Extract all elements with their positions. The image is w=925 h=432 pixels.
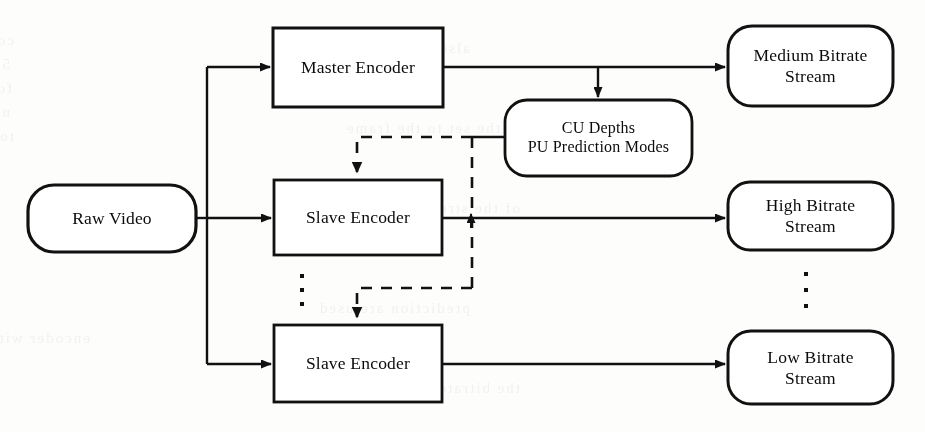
node-raw-video [28, 185, 196, 252]
node-high-bitrate-stream [728, 182, 893, 250]
stream-ellipsis [803, 272, 808, 308]
node-medium-bitrate-stream [728, 26, 893, 106]
node-slave-encoder-1 [274, 180, 442, 255]
node-master-encoder [273, 28, 443, 107]
node-low-bitrate-stream [728, 331, 893, 404]
diagram-page: corner of ye to before56 and of is thefo… [0, 0, 925, 432]
ellipsis-dot [804, 272, 808, 276]
ellipsis-dot [804, 288, 808, 292]
ellipsis-dot [804, 304, 808, 308]
ellipsis-dot [300, 274, 304, 278]
ellipsis-dot [300, 288, 304, 292]
node-cu-depths [505, 100, 692, 176]
edge-cu-to-slave-encoder-1 [357, 137, 472, 172]
node-slave-encoder-2 [274, 325, 442, 402]
edge-cu-to-slave-encoder-2 [357, 288, 472, 317]
encoder-ellipsis [299, 274, 304, 306]
encoder-pipeline-diagram [0, 0, 925, 432]
ellipsis-dot [300, 302, 304, 306]
